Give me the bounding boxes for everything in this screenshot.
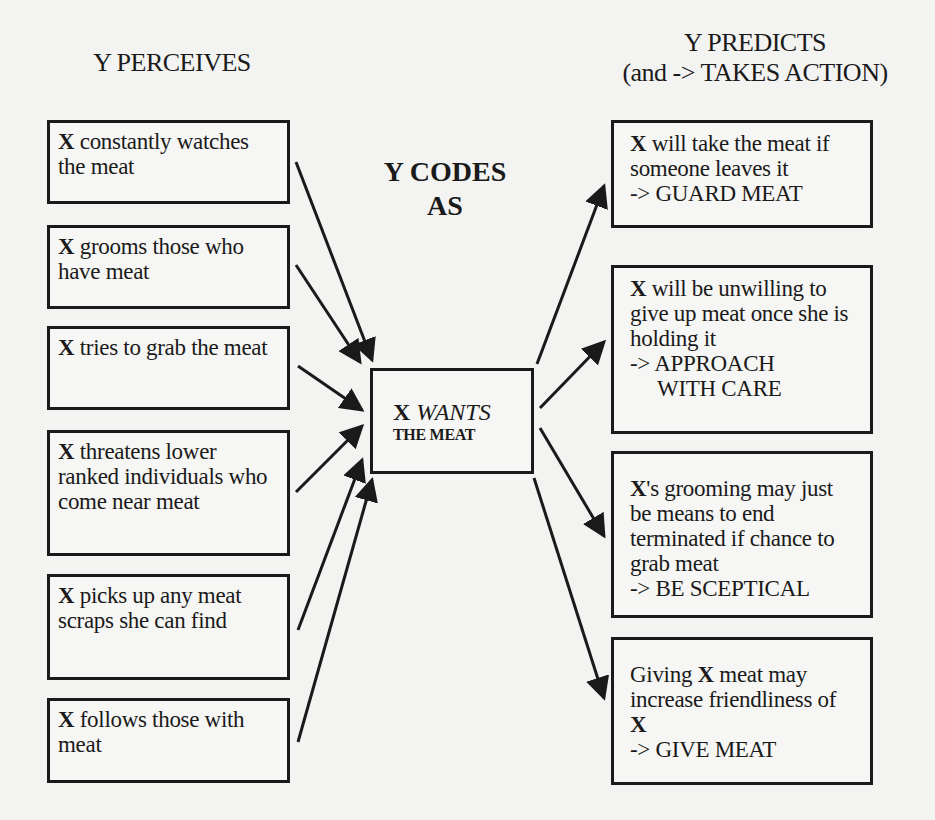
- arrow-icon: [296, 162, 372, 360]
- arrow-icon: [298, 480, 372, 742]
- arrow-icon: [298, 366, 362, 410]
- arrow-icon: [540, 428, 604, 536]
- arrow-icon: [296, 265, 360, 362]
- arrow-icon: [540, 342, 604, 408]
- arrows-layer: [0, 0, 935, 820]
- arrow-icon: [534, 478, 604, 698]
- arrow-icon: [537, 186, 604, 364]
